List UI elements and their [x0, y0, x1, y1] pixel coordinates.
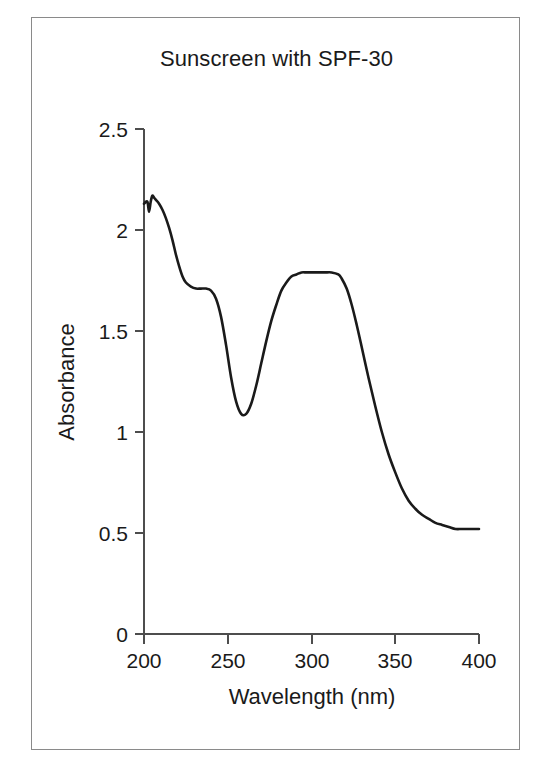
- x-tick-label-400: 400: [461, 649, 496, 672]
- x-axis-ticks: [144, 634, 479, 644]
- y-tick-label-0: 0: [116, 623, 128, 646]
- absorbance-spectrum-plot: 2.5 2 1.5 1 0.5 0 200 250 300 350 400 Wa…: [32, 18, 521, 751]
- x-tick-label-300: 300: [294, 649, 329, 672]
- y-tick-label-2: 2: [116, 219, 128, 242]
- y-tick-label-2.5: 2.5: [99, 118, 128, 141]
- figure-frame: Sunscreen with SPF-30 2.5 2 1.5 1 0.5 0: [31, 17, 520, 750]
- x-axis-label: Wavelength (nm): [229, 684, 396, 709]
- y-axis-label: Absorbance: [54, 323, 79, 440]
- x-tick-label-250: 250: [210, 649, 245, 672]
- y-tick-label-0.5: 0.5: [99, 522, 128, 545]
- absorbance-curve: [144, 196, 479, 530]
- x-tick-label-350: 350: [377, 649, 412, 672]
- y-axis-ticks: [135, 129, 144, 634]
- x-tick-label-200: 200: [126, 649, 161, 672]
- y-tick-label-1.5: 1.5: [99, 320, 128, 343]
- y-tick-label-1: 1: [116, 421, 128, 444]
